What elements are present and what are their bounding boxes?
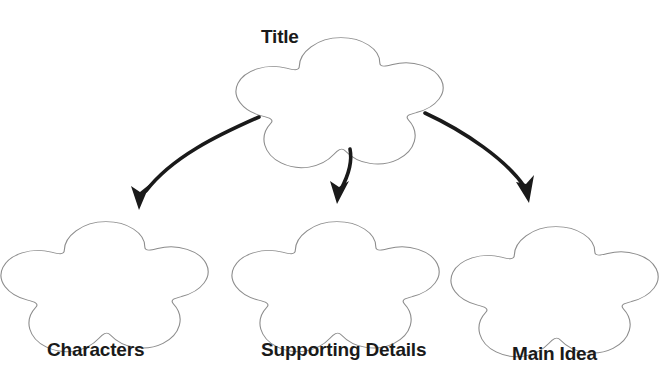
arrow-head-title-to-supporting-details — [330, 181, 349, 204]
connector-title-to-characters — [131, 117, 259, 210]
node-shape-title[interactable] — [236, 38, 443, 168]
arrow-head-title-to-characters — [131, 184, 150, 210]
node-label-title[interactable]: Title — [261, 27, 299, 46]
flower-outline-title — [236, 38, 443, 168]
node-label-characters[interactable]: Characters — [47, 340, 144, 359]
arrow-line-title-to-characters — [146, 117, 259, 191]
flower-outline-characters — [1, 222, 208, 352]
flower-outline-supporting-details — [232, 222, 439, 352]
node-label-main-idea[interactable]: Main Idea — [512, 344, 597, 363]
flower-outline-main-idea — [451, 227, 658, 357]
graphic-organizer-diagram: Title Characters Supporting Details Main… — [0, 0, 661, 376]
node-shape-characters[interactable] — [1, 222, 208, 352]
node-shape-supporting-details[interactable] — [232, 222, 439, 352]
node-label-supporting-details[interactable]: Supporting Details — [261, 340, 426, 359]
diagram-canvas — [0, 0, 661, 376]
connector-title-to-supporting-details — [330, 149, 351, 204]
connector-title-to-main-idea — [425, 113, 534, 203]
arrow-line-title-to-main-idea — [425, 113, 524, 186]
node-shape-main-idea[interactable] — [451, 227, 658, 357]
